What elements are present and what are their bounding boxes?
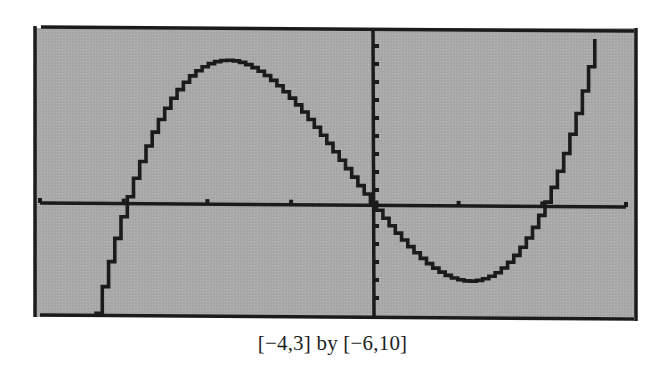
- y-tick: [374, 260, 379, 264]
- plot-background: [35, 28, 635, 317]
- y-tick: [374, 62, 379, 66]
- y-tick: [374, 296, 379, 300]
- y-tick: [374, 242, 379, 246]
- y-tick: [374, 224, 379, 228]
- y-tick: [374, 80, 379, 84]
- y-tick: [374, 188, 379, 192]
- graph-screen: [0, 0, 665, 330]
- x-tick: [205, 199, 209, 204]
- y-tick: [374, 44, 379, 48]
- y-tick: [374, 152, 379, 156]
- x-tick: [122, 199, 126, 204]
- y-tick: [374, 98, 379, 102]
- x-tick: [624, 202, 628, 207]
- calculator-graph-figure: [−4,3] by [−6,10]: [0, 0, 665, 368]
- y-tick: [374, 134, 379, 138]
- y-tick: [374, 116, 379, 120]
- y-tick: [374, 170, 379, 174]
- window-caption: [−4,3] by [−6,10]: [0, 331, 665, 356]
- y-axis: [373, 28, 374, 318]
- y-tick: [374, 278, 379, 282]
- x-tick: [289, 200, 293, 205]
- x-tick: [38, 198, 42, 203]
- x-tick: [457, 201, 461, 206]
- y-axis-ticks: [374, 44, 379, 300]
